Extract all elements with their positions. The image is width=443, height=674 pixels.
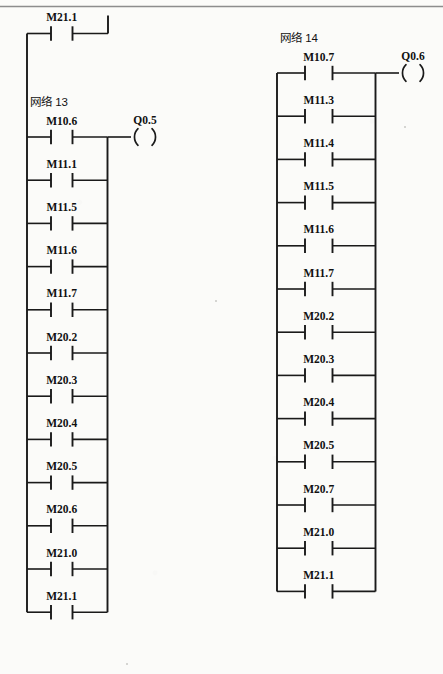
coil-arc-left [134,129,138,146]
coil-arc-left [402,65,406,82]
contact-M20-3[interactable]: M20.3 [46,374,77,404]
contact-M11-7[interactable]: M11.7 [304,267,335,297]
contact-M20-2[interactable]: M20.2 [46,331,77,361]
contact-M10-7[interactable]: M10.7 [303,51,334,81]
output-coil-Q0-6[interactable]: Q0.6 [401,50,425,82]
coil-label: Q0.5 [133,114,157,126]
paper-speck [404,126,406,128]
contact-label: M20.4 [46,417,77,429]
output-coil-Q0-5[interactable]: Q0.5 [133,114,157,146]
paper-speck [215,300,217,302]
contact-label: M20.5 [303,439,334,451]
contact-M10-6[interactable]: M10.6 [46,115,77,145]
contact-label: M20.6 [46,503,77,515]
contact-label: M21.0 [303,526,334,538]
contact-label: M11.6 [47,244,78,256]
contact-label: M11.3 [304,94,335,106]
paper-speck [126,663,128,665]
contact-M21-1[interactable]: M21.1 [46,590,77,620]
contact-M11-3[interactable]: M11.3 [304,94,335,124]
contact-M20-6[interactable]: M20.6 [46,503,77,533]
network-14-group: 网络 14M10.7M11.3M11.4M11.5M11.6M11.7M20.2… [277,31,425,599]
contact-M21-1[interactable]: M21.1 [303,569,334,599]
contact-label: M20.2 [46,331,77,343]
contact-M11-6[interactable]: M11.6 [304,223,335,253]
contact-label: M20.2 [303,310,334,322]
contact-M20-5[interactable]: M20.5 [303,439,334,469]
contact-M21-1[interactable]: M21.1 [46,11,77,41]
contact-M11-5[interactable]: M11.5 [47,201,78,231]
contact-label: M21.0 [46,547,77,559]
contact-M11-1[interactable]: M11.1 [47,158,78,188]
contact-M20-3[interactable]: M20.3 [303,353,334,383]
coil-arc-right [420,65,424,82]
contact-label: M11.7 [304,267,335,279]
contact-label: M11.6 [304,223,335,235]
contact-label: M21.1 [46,11,77,23]
contact-M11-4[interactable]: M11.4 [304,137,335,167]
contact-label: M11.4 [304,137,335,149]
contact-label: M11.7 [47,287,78,299]
contact-M20-4[interactable]: M20.4 [46,417,77,447]
contact-M21-0[interactable]: M21.0 [46,547,77,577]
ladder-diagram-page: M21.1 网络 13M10.6M11.1M11.5M11.6M11.7M20.… [0,0,443,674]
contact-label: M11.5 [304,180,335,192]
network-13-group: 网络 13M10.6M11.1M11.5M11.6M11.7M20.2M20.3… [27,95,157,619]
contact-label: M21.1 [303,569,334,581]
contact-M20-4[interactable]: M20.4 [303,396,334,426]
contact-label: M11.1 [47,158,78,170]
contact-label: M21.1 [46,590,77,602]
contact-label: M20.5 [46,460,77,472]
network-title: 网络 14 [280,31,319,44]
coil-arc-right [152,129,156,146]
ladder-logic-canvas: M21.1 网络 13M10.6M11.1M11.5M11.6M11.7M20.… [0,0,443,674]
contact-M11-5[interactable]: M11.5 [304,180,335,210]
contact-M11-6[interactable]: M11.6 [47,244,78,274]
contact-label: M20.7 [303,483,334,495]
contact-label: M20.3 [46,374,77,386]
coil-label: Q0.6 [401,50,425,62]
contact-M20-5[interactable]: M20.5 [46,460,77,490]
contact-label: M20.3 [303,353,334,365]
contact-label: M20.4 [303,396,334,408]
contact-M11-7[interactable]: M11.7 [47,287,78,317]
contact-label: M10.7 [303,51,334,63]
contact-label: M10.6 [46,115,77,127]
contact-label: M11.5 [47,201,78,213]
network-title: 网络 13 [30,95,68,108]
contact-M21-0[interactable]: M21.0 [303,526,334,556]
contact-M20-7[interactable]: M20.7 [303,483,334,513]
contact-M20-2[interactable]: M20.2 [303,310,334,340]
